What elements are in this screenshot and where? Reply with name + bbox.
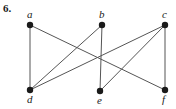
- graph-edge-b-e: [100, 25, 102, 91]
- vertex-label-e: e: [97, 95, 102, 106]
- graph-vertex-b: [99, 22, 105, 28]
- vertex-label-d: d: [27, 94, 33, 105]
- graph-vertex-a: [27, 22, 33, 28]
- graph-edge-c-e: [100, 25, 165, 91]
- graph-edge-b-d: [30, 25, 102, 90]
- graph-figure: 6. abcdef: [0, 0, 176, 109]
- vertex-label-a: a: [27, 9, 33, 20]
- graph-vertex-c: [162, 22, 168, 28]
- vertex-label-b: b: [99, 9, 105, 20]
- edges-group: [30, 25, 165, 91]
- vertex-label-f: f: [162, 94, 165, 105]
- vertex-label-c: c: [162, 9, 167, 20]
